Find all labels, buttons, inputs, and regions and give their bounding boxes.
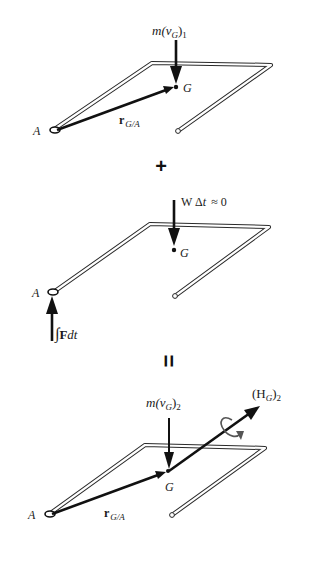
momentum-label-2: m(vG)2: [146, 395, 181, 412]
panel-initial-momentum: m(vG)1 G A rG/A: [32, 23, 271, 138]
point-g-label: G: [165, 480, 174, 494]
bent-rod: [56, 63, 271, 133]
center-of-mass-point: [172, 248, 176, 252]
point-a-label: A: [31, 286, 40, 300]
position-vector-label: rG/A: [104, 506, 125, 522]
svg-text:=: =: [156, 355, 181, 368]
bent-rod: [55, 224, 269, 298]
center-of-mass-point: [174, 85, 178, 89]
center-of-mass-point: [166, 469, 170, 473]
momentum-label-1: m(vG)1: [152, 23, 187, 40]
position-vector-arrow: [57, 86, 174, 130]
force-impulse-label: ∫Fdt: [54, 325, 78, 344]
bent-rod: [52, 445, 265, 517]
panel-final-momentum: m(vG)2 (HG)2 G A rG/A: [27, 386, 281, 522]
weight-impulse-label: W Δt≈ 0: [181, 195, 227, 209]
point-a-label: A: [32, 124, 41, 138]
plus-operator: +: [155, 155, 167, 177]
pin-a-icon: [48, 289, 58, 295]
position-vector-label: rG/A: [119, 113, 140, 129]
equals-operator: =: [156, 355, 181, 368]
impulse-momentum-diagram: m(vG)1 G A rG/A + W Δt≈ 0 G A: [0, 0, 311, 579]
panel-impulse: W Δt≈ 0 G A ∫Fdt: [31, 195, 269, 344]
point-a-label: A: [27, 508, 36, 522]
angular-momentum-label: (HG)2: [252, 386, 281, 403]
point-g-label: G: [183, 81, 192, 95]
point-g-label: G: [180, 246, 189, 260]
